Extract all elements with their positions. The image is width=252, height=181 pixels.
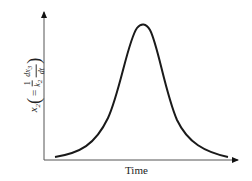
y-axis-label: x2 ( = 1 k2 dx3 dt ) (4, 55, 64, 115)
peak-curve (55, 24, 228, 157)
x-axis-label: Time (125, 164, 148, 176)
